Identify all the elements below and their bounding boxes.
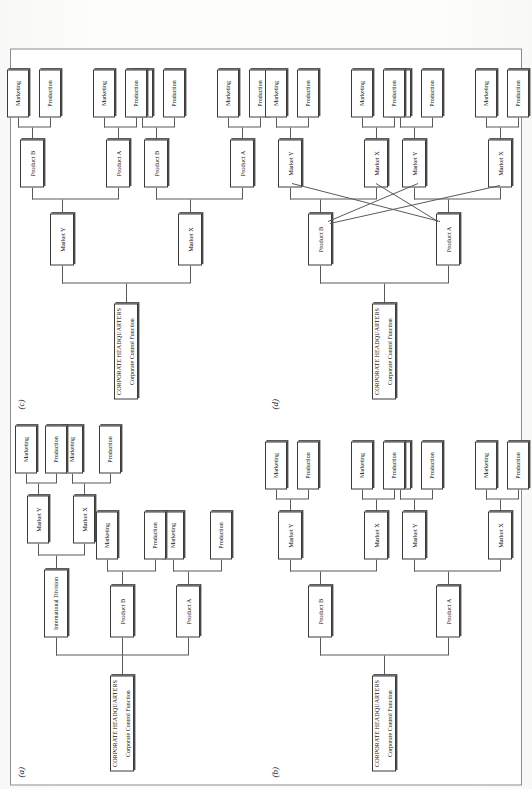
conn-c-my-p2	[32, 187, 33, 199]
panel-b: (b) CORPORATE HEADQUARTERS Corporate Con…	[268, 417, 520, 785]
conn-a-l2-1	[188, 637, 189, 655]
panel-a-label: (a)	[16, 767, 26, 778]
node-production-d1: Production	[507, 69, 529, 117]
node-market-y-a: Market Y	[27, 495, 49, 543]
conn-b-mx1-c1	[518, 489, 519, 499]
conn-a-mx-c2	[72, 473, 73, 483]
conn-b-pa-bus	[414, 570, 500, 571]
conn-a-mx-c1	[110, 473, 111, 483]
node-product-a-c2: Product A	[106, 139, 130, 187]
conn-a-pb-c2	[107, 559, 108, 571]
node-production-b1: Production	[507, 441, 529, 489]
node-market-y-d2: Market Y	[278, 139, 302, 187]
node-marketing-d3: Marketing	[351, 69, 373, 117]
conn-c-mx-bus	[156, 198, 242, 199]
conn-d-pb-m1	[376, 187, 377, 199]
node-marketing-d4: Marketing	[265, 69, 287, 117]
node-production-a1: Production	[210, 511, 232, 559]
conn-c-pa1-bus	[228, 126, 260, 127]
conn-d-root-out	[384, 283, 385, 303]
node-product-a-a: Product A	[176, 585, 200, 637]
conn-a-pa-bus	[173, 570, 221, 571]
conn-b-mx1-out	[500, 499, 501, 511]
node-marketing-c1: Marketing	[217, 69, 239, 117]
panel-d: (d) CORPORATE HEADQUARTERS Corporate Con…	[268, 53, 520, 413]
node-production-c2: Production	[163, 69, 185, 117]
conn-b-pb-m1	[376, 559, 377, 571]
conn-c-l2-2	[62, 265, 63, 283]
conn-d-my1-c2	[400, 117, 401, 127]
conn-c-pa1-c1	[260, 117, 261, 127]
node-market-x-b1: Market X	[488, 511, 512, 559]
conn-a-mx-out	[84, 483, 85, 495]
conn-d-mx2-c1	[394, 117, 395, 127]
conn-c-pb1-bus	[142, 126, 174, 127]
conn-d-my2-bus	[276, 126, 308, 127]
hq-title-c: CORPORATE HEADQUARTERS	[116, 308, 123, 395]
conn-b-l2-2	[320, 637, 321, 655]
conn-b-l2-1	[448, 637, 449, 655]
conn-d-pb-bus	[290, 198, 376, 199]
conn-d-mx1-c2	[486, 117, 487, 127]
conn-c-pb2-c2	[18, 117, 19, 127]
conn-d-pa-out	[448, 199, 449, 213]
hq-title-a: CORPORATE HEADQUARTERS	[112, 680, 119, 767]
conn-a-l2-2	[122, 637, 123, 655]
node-hq-a: CORPORATE HEADQUARTERS Corporate Control…	[110, 675, 134, 771]
conn-c-pb1-c2	[142, 117, 143, 127]
node-marketing-c4: Marketing	[7, 69, 29, 117]
conn-a-pb-bus	[107, 570, 155, 571]
conn-c-pb1-c1	[174, 117, 175, 127]
conn-d-pb-out	[320, 199, 321, 213]
node-marketing-b1: Marketing	[475, 441, 497, 489]
node-hq-b: CORPORATE HEADQUARTERS Corporate Control…	[372, 675, 396, 771]
conn-b-pb-m2	[290, 559, 291, 571]
node-production-a2: Production	[144, 511, 166, 559]
conn-d-mx2-out	[376, 127, 377, 139]
conn-a-idiv-c1	[84, 543, 85, 555]
node-marketing-b4: Marketing	[265, 441, 287, 489]
node-marketing-a2: Marketing	[96, 511, 118, 559]
conn-a-my-out	[38, 483, 39, 495]
conn-b-pa-m2	[414, 559, 415, 571]
conn-a-pa-out	[188, 571, 189, 585]
node-production-a4: Production	[45, 425, 67, 473]
hq-title-b: CORPORATE HEADQUARTERS	[374, 680, 381, 767]
conn-d-my1-c1	[432, 117, 433, 127]
conn-c-mx-p2	[156, 187, 157, 199]
conn-d-my2-c1	[308, 117, 309, 127]
conn-a-pb-out	[122, 571, 123, 585]
conn-b-my1-out	[414, 499, 415, 511]
node-production-c3: Production	[125, 69, 147, 117]
conn-b-pb-out	[320, 571, 321, 585]
conn-b-my2-out	[290, 499, 291, 511]
conn-b-my1-c1	[432, 489, 433, 499]
conn-b-mx1-bus	[486, 498, 518, 499]
conn-a-l2-3	[56, 637, 57, 655]
conn-c-my-bus	[32, 198, 118, 199]
conn-c-my-p1	[118, 187, 119, 199]
conn-b-my1-c2	[400, 489, 401, 499]
conn-c-pb2-c1	[50, 117, 51, 127]
node-market-x-c: Market X	[178, 213, 202, 265]
conn-d-my2-out	[290, 127, 291, 139]
conn-d-mx1-out	[500, 127, 501, 139]
hq-sub-d: Corporate Control Function	[387, 308, 393, 395]
node-market-y-c: Market Y	[50, 213, 74, 265]
conn-c-pa2-out	[118, 127, 119, 139]
conn-d-mx1-c1	[518, 117, 519, 127]
conn-c-pa2-bus	[104, 126, 136, 127]
conn-c-pb2-out	[32, 127, 33, 139]
panel-c: (c) CORPORATE HEADQUARTERS Corporate Con…	[10, 53, 265, 413]
conn-c-pa2-c1	[136, 117, 137, 127]
conn-c-root-out	[126, 283, 127, 303]
node-production-d2: Production	[421, 69, 443, 117]
conn-c-root-bus	[62, 282, 190, 283]
conn-c-my-out	[62, 199, 63, 213]
node-marketing-c3: Marketing	[93, 69, 115, 117]
conn-d-mx2-bus	[362, 126, 394, 127]
crosslink-pa-to-mx2	[376, 183, 438, 221]
node-product-a-c1: Product A	[230, 139, 254, 187]
conn-b-pa-m1	[500, 559, 501, 571]
hq-sub-b: Corporate Control Function	[387, 680, 393, 767]
